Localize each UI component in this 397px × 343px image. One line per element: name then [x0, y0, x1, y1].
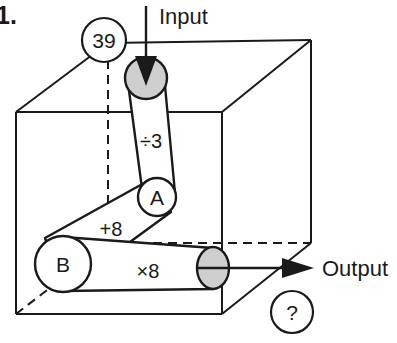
value-badge-label: 39 [92, 29, 115, 52]
arrow-right-icon [282, 258, 314, 278]
input-label: Input [159, 4, 208, 29]
operation-add-label: +8 [100, 218, 123, 240]
unknown-badge-label: ? [286, 301, 298, 324]
pulley-a-label: A [150, 186, 164, 209]
box-edge-top-back [108, 40, 311, 43]
item-number: 1. [0, 1, 17, 29]
pulley-box-diagram: 39 ? A B ÷3 +8 ×8 Input Output 1. [0, 0, 397, 343]
operation-multiply-label: ×8 [137, 260, 160, 282]
box-edge-top-right [222, 40, 311, 112]
pulley-b-label: B [56, 253, 70, 276]
operation-divide-label: ÷3 [140, 130, 162, 152]
figure-canvas: 39 ? A B ÷3 +8 ×8 Input Output 1. [0, 0, 397, 343]
output-label: Output [322, 256, 388, 281]
